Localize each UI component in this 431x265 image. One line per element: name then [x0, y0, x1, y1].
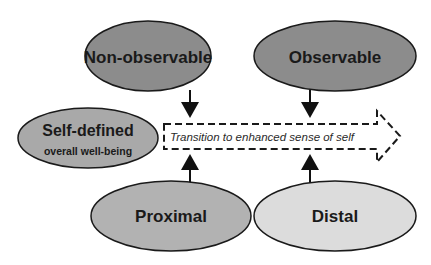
arrow-up-proximal: [181, 154, 199, 183]
node-distal: Distal: [254, 181, 416, 251]
node-label: Distal: [312, 207, 358, 226]
diagram-canvas: Non-observable Observable Self-defined o…: [0, 0, 431, 265]
node-label: Self-defined: [42, 122, 134, 139]
arrow-up-distal: [301, 154, 319, 183]
node-label: Non-observable: [84, 48, 212, 67]
arrow-down-non-observable: [181, 90, 199, 118]
node-observable: Observable: [254, 21, 416, 91]
transition-arrow: Transition to enhanced sense of self: [164, 111, 400, 162]
node-sublabel: overall well-being: [44, 145, 132, 157]
arrow-down-observable: [301, 90, 319, 118]
node-label: Proximal: [135, 207, 207, 226]
node-proximal: Proximal: [91, 181, 251, 251]
transition-label: Transition to enhanced sense of self: [170, 131, 356, 143]
node-non-observable: Non-observable: [84, 21, 212, 91]
node-label: Observable: [289, 48, 382, 67]
node-self-defined: Self-defined overall well-being: [18, 108, 158, 168]
